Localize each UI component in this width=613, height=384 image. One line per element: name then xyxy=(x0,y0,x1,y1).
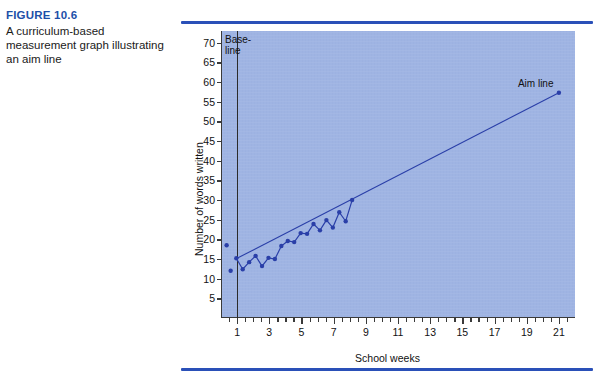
data-point xyxy=(292,240,296,244)
data-point xyxy=(557,91,561,95)
data-point xyxy=(224,243,228,247)
data-point xyxy=(298,231,302,235)
data-point xyxy=(241,267,245,271)
series-line xyxy=(236,200,352,269)
data-point xyxy=(331,225,335,229)
data-point xyxy=(228,269,232,273)
data-point xyxy=(318,228,322,232)
data-point xyxy=(311,222,315,226)
data-point xyxy=(337,210,341,214)
data-point xyxy=(266,256,270,260)
data-point xyxy=(253,254,257,258)
data-point xyxy=(286,239,290,243)
figure-number: FIGURE 10.6 xyxy=(6,8,174,22)
figure-caption: FIGURE 10.6 A curriculum-based measureme… xyxy=(6,8,174,67)
data-point xyxy=(279,244,283,248)
data-point xyxy=(344,219,348,223)
series-line xyxy=(237,93,559,259)
data-point xyxy=(305,232,309,236)
data-point xyxy=(273,257,277,261)
data-point xyxy=(247,260,251,264)
figure-panel: 510152025303540455055606570 135791113151… xyxy=(181,0,594,384)
data-point xyxy=(260,264,264,268)
figure-description: A curriculum-based measurement graph ill… xyxy=(6,24,174,67)
data-point xyxy=(324,218,328,222)
chart-series-layer xyxy=(181,0,594,384)
